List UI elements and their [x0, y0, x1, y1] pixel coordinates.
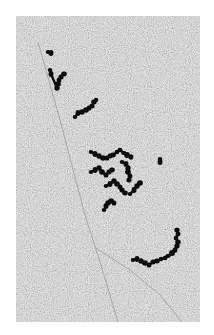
bead: [49, 50, 54, 56]
bead: [128, 192, 133, 196]
bead: [174, 228, 179, 233]
bead: [109, 168, 115, 173]
bead: [147, 262, 152, 267]
bead: [137, 180, 143, 185]
isolated-dot: [158, 157, 163, 165]
bead: [176, 232, 181, 237]
bead: [126, 178, 131, 183]
bead: [61, 72, 67, 77]
bead: [49, 71, 54, 77]
bead: [158, 159, 163, 165]
bead: [112, 200, 117, 205]
bead: [110, 153, 116, 158]
electron-micrograph: [0, 0, 214, 335]
bead: [129, 154, 134, 160]
image-frame: Grayscale electron micrograph showing da…: [0, 0, 214, 335]
bead: [118, 148, 123, 152]
bead: [122, 191, 128, 196]
bead: [73, 115, 78, 119]
bead: [94, 98, 99, 103]
